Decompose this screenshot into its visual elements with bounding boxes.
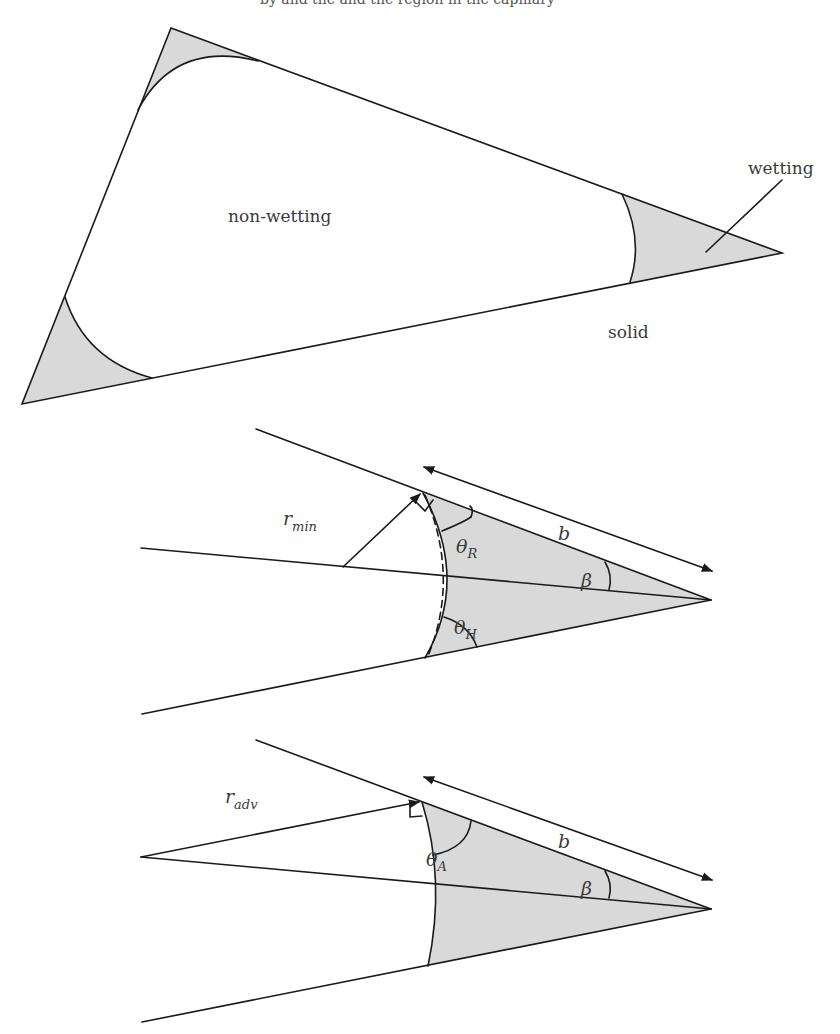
corner-receding-figure: rmin b θR θH β: [141, 429, 712, 714]
beta-label-bottom: β: [580, 877, 592, 899]
b-label-bottom: b: [558, 830, 570, 852]
header-cut-text: by and the and the region in the capilla…: [260, 0, 555, 7]
right-angle-marker: [410, 805, 422, 817]
wetting-label: wetting: [748, 158, 814, 178]
non-wetting-label: non-wetting: [228, 206, 332, 226]
radius-arrow-min: [343, 494, 420, 567]
wetting-corner-top: [138, 28, 258, 110]
wetting-corner-bottom-left: [22, 297, 152, 404]
triangle-pore-figure: non-wetting wetting solid: [22, 28, 814, 404]
r-min-label: rmin: [283, 507, 317, 534]
radius-arrow-adv: [141, 802, 419, 857]
figure-canvas: by and the and the region in the capilla…: [0, 0, 840, 1034]
solid-label: solid: [608, 322, 649, 342]
r-adv-label: radv: [225, 785, 258, 812]
b-label-middle: b: [558, 522, 570, 544]
lower-wall: [142, 600, 711, 714]
beta-label-middle: β: [580, 569, 592, 591]
lower-wall: [142, 909, 711, 1022]
wetting-region-bottom: [422, 802, 711, 966]
corner-advancing-figure: radv b θA β: [141, 740, 712, 1022]
